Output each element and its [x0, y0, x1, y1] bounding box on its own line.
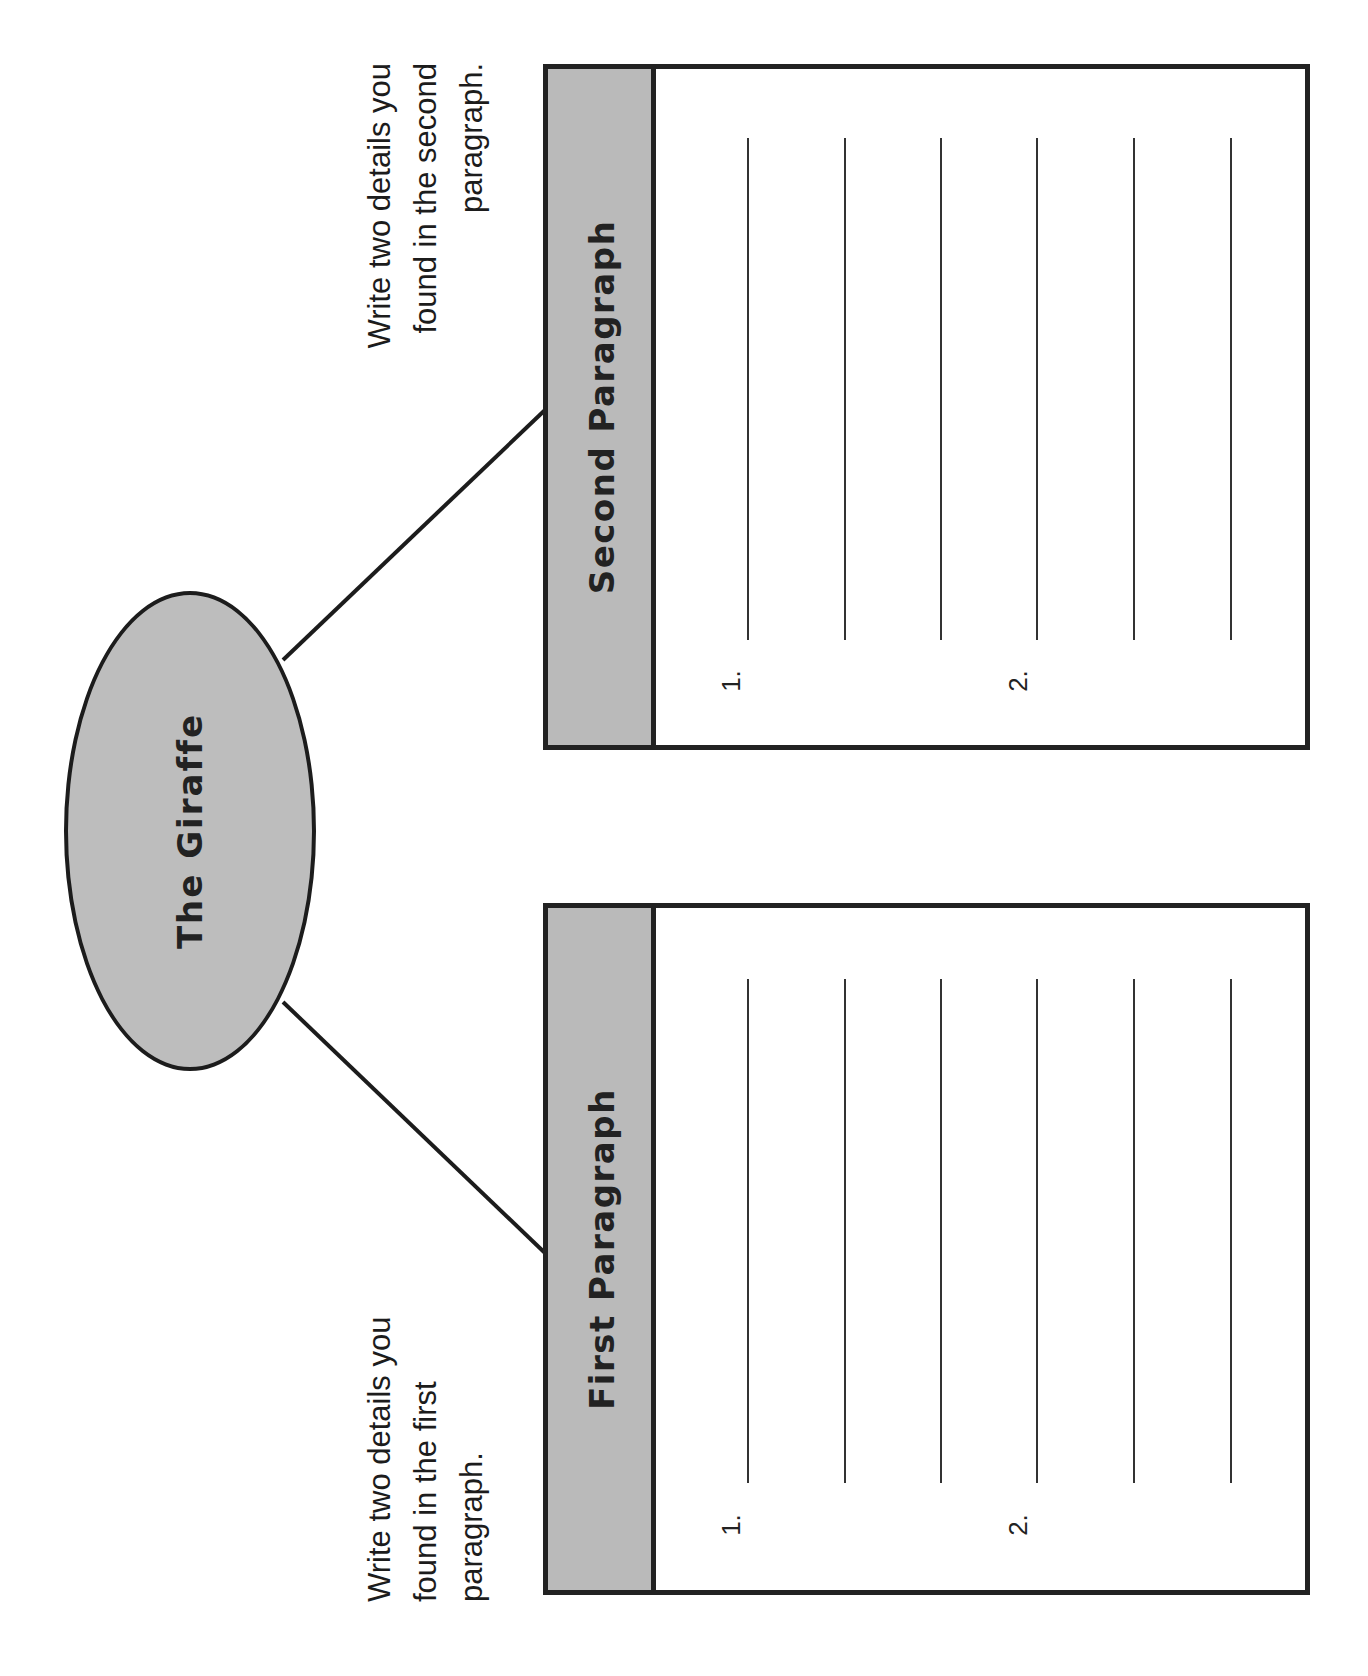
- first-paragraph-heading: First Paragraph: [582, 1088, 622, 1410]
- connector-to-first-paragraph: [283, 1002, 545, 1253]
- writing-line-1[interactable]: [747, 979, 749, 1483]
- second-paragraph-header: Second Paragraph: [548, 69, 656, 745]
- first-paragraph-header: First Paragraph: [548, 908, 656, 1590]
- instruction-line: Write two details you: [357, 63, 403, 408]
- writing-line-1[interactable]: [747, 138, 749, 640]
- worksheet-title: The Giraffe: [170, 713, 210, 949]
- item-number-1: 1.: [716, 1514, 747, 1536]
- instruction-line: found in the first: [403, 1257, 449, 1602]
- item-number-1: 1.: [716, 670, 747, 692]
- item-number-2: 2.: [1003, 1514, 1034, 1536]
- instruction-line: paragraph.: [449, 1257, 495, 1602]
- item-number-2: 2.: [1003, 670, 1034, 692]
- writing-line-4[interactable]: [1036, 979, 1038, 1483]
- writing-line-4[interactable]: [1036, 138, 1038, 640]
- second-paragraph-instruction: Write two details you found in the secon…: [357, 63, 495, 408]
- writing-line-2[interactable]: [844, 979, 846, 1483]
- writing-line-2[interactable]: [844, 138, 846, 640]
- first-paragraph-box: First Paragraph 1. 2.: [543, 903, 1310, 1595]
- writing-line-5[interactable]: [1133, 979, 1135, 1483]
- writing-line-6[interactable]: [1230, 979, 1232, 1483]
- instruction-line: found in the second: [403, 63, 449, 408]
- writing-line-3[interactable]: [940, 138, 942, 640]
- writing-line-3[interactable]: [940, 979, 942, 1483]
- second-paragraph-heading: Second Paragraph: [582, 220, 622, 595]
- writing-line-5[interactable]: [1133, 138, 1135, 640]
- instruction-line: Write two details you: [357, 1257, 403, 1602]
- connector-to-second-paragraph: [283, 410, 545, 660]
- writing-line-6[interactable]: [1230, 138, 1232, 640]
- instruction-line: paragraph.: [449, 63, 495, 408]
- second-paragraph-box: Second Paragraph 1. 2.: [543, 64, 1310, 750]
- first-paragraph-instruction: Write two details you found in the first…: [357, 1257, 495, 1602]
